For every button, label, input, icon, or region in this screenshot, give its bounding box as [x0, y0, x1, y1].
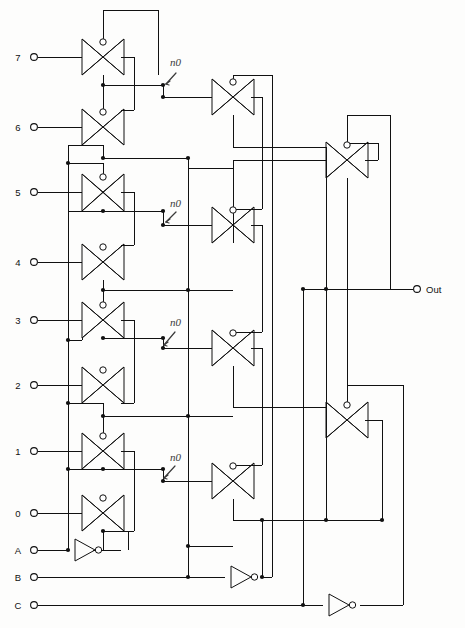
input-terminal-7[interactable]: 7 — [15, 52, 37, 63]
transmission-gate-in4[interactable] — [82, 244, 124, 280]
transmission-gate-in7[interactable] — [82, 39, 124, 75]
transmission-gate-in2[interactable] — [82, 367, 124, 403]
input-label-7: 7 — [15, 52, 20, 63]
inverter-b[interactable] — [231, 566, 258, 588]
input-label-a: A — [15, 545, 22, 556]
input-terminal-c[interactable]: C — [15, 600, 38, 611]
annotation-n0-2-text: n0 — [170, 197, 182, 209]
input-terminal-a[interactable]: A — [15, 545, 38, 556]
junction-layer — [66, 83, 384, 607]
input-label-1: 1 — [15, 446, 20, 457]
schematic-canvas: 7 6 5 4 3 2 1 — [0, 0, 465, 628]
terminal-layer: 7 6 5 4 3 2 1 — [15, 52, 442, 611]
annotation-n0-3: n0 — [164, 316, 182, 346]
inverter-a[interactable] — [75, 539, 102, 561]
annotation-n0-1-text: n0 — [170, 56, 182, 68]
input-label-0: 0 — [15, 508, 20, 519]
input-label-6: 6 — [15, 122, 20, 133]
output-label-out: Out — [426, 284, 442, 295]
transmission-gate-out-bot[interactable] — [326, 402, 368, 438]
input-label-2: 2 — [15, 380, 20, 391]
transmission-gate-mid-d[interactable] — [212, 463, 254, 499]
input-terminal-6[interactable]: 6 — [15, 122, 37, 133]
circuit-schematic: 7 6 5 4 3 2 1 — [0, 0, 465, 628]
transmission-gate-in5[interactable] — [82, 174, 124, 211]
gate-layer — [75, 39, 368, 616]
input-label-5: 5 — [15, 187, 20, 198]
annotation-n0-4-text: n0 — [170, 451, 182, 463]
transmission-gate-in1[interactable] — [82, 433, 124, 469]
input-label-b: B — [15, 572, 21, 583]
transmission-gate-mid-a[interactable] — [212, 79, 254, 115]
transmission-gate-out-top[interactable] — [326, 142, 368, 178]
input-terminal-2[interactable]: 2 — [15, 380, 37, 391]
input-terminal-1[interactable]: 1 — [15, 446, 37, 457]
inverter-c[interactable] — [329, 594, 356, 616]
output-terminal-out[interactable]: Out — [414, 284, 442, 295]
annotation-n0-1: n0 — [166, 56, 182, 85]
input-terminal-4[interactable]: 4 — [15, 257, 37, 268]
input-label-3: 3 — [15, 315, 20, 326]
input-terminal-5[interactable]: 5 — [15, 187, 37, 198]
input-terminal-0[interactable]: 0 — [15, 508, 37, 519]
wire-layer — [38, 10, 413, 605]
annotation-n0-2: n0 — [166, 197, 182, 223]
transmission-gate-in0[interactable] — [82, 495, 124, 531]
input-terminal-b[interactable]: B — [15, 572, 38, 583]
input-terminal-3[interactable]: 3 — [15, 315, 37, 326]
transmission-gate-mid-c[interactable] — [212, 330, 254, 366]
transmission-gate-in6[interactable] — [82, 109, 124, 145]
input-label-c: C — [15, 600, 22, 611]
transmission-gate-in3[interactable] — [82, 302, 124, 338]
input-label-4: 4 — [15, 257, 20, 268]
annotation-n0-3-text: n0 — [170, 316, 182, 328]
annotation-n0-4: n0 — [164, 451, 182, 479]
